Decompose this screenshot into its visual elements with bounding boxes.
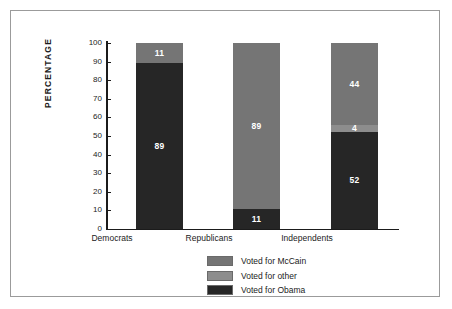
bar-republicans[interactable]: 89 11 <box>233 43 280 229</box>
legend-label: Voted for McCain <box>241 257 306 266</box>
legend-item-mccain[interactable]: Voted for McCain <box>207 254 306 269</box>
y-tick-label: 60 <box>72 113 102 121</box>
figure-border: PERCENTAGE 1009080706050403020100 11 89 <box>10 10 440 297</box>
segment-other[interactable]: 4 <box>331 125 378 132</box>
legend-swatch-obama <box>207 285 233 295</box>
chart-figure: PERCENTAGE 1009080706050403020100 11 89 <box>0 0 452 309</box>
segment-value-label: 89 <box>155 142 165 151</box>
segment-obama[interactable]: 11 <box>233 209 280 229</box>
y-tick-label: 100 <box>72 39 102 47</box>
legend-swatch-other <box>207 271 233 281</box>
legend-item-other[interactable]: Voted for other <box>207 269 306 284</box>
y-tick-label: 40 <box>72 151 102 159</box>
segment-value-label: 11 <box>155 49 164 58</box>
legend-label: Voted for Obama <box>241 286 305 295</box>
segment-mccain[interactable]: 44 <box>331 43 378 125</box>
y-tick-label: 20 <box>72 188 102 196</box>
segment-obama[interactable]: 52 <box>331 132 378 229</box>
segment-value-label: 52 <box>350 176 360 185</box>
y-tick-label: 50 <box>72 132 102 140</box>
segment-obama[interactable]: 89 <box>136 63 183 229</box>
legend-label: Voted for other <box>241 272 297 281</box>
y-tick-label: 30 <box>72 169 102 177</box>
y-tick-mark <box>108 229 112 230</box>
y-tick-label: 90 <box>72 58 102 66</box>
legend-item-obama[interactable]: Voted for Obama <box>207 283 306 298</box>
y-tick-label: 70 <box>72 95 102 103</box>
bar-democrats[interactable]: 11 89 <box>136 43 183 229</box>
segment-mccain[interactable]: 89 <box>233 43 280 209</box>
segment-value-label: 44 <box>350 80 360 89</box>
y-tick-label: 80 <box>72 76 102 84</box>
plot-area: 11 89 89 11 <box>107 43 399 229</box>
y-tick-label: 0 <box>72 225 102 233</box>
y-tick-label: 10 <box>72 206 102 214</box>
bar-independents[interactable]: 44 4 52 <box>331 43 378 229</box>
category-label-independents: Independents <box>247 233 367 243</box>
segment-value-label: 11 <box>252 215 261 224</box>
segment-value-label: 89 <box>252 122 262 131</box>
y-axis-title: PERCENTAGE <box>43 3 53 143</box>
legend: Voted for McCain Voted for other Voted f… <box>207 254 306 298</box>
legend-swatch-mccain <box>207 256 233 266</box>
segment-mccain[interactable]: 11 <box>136 43 183 63</box>
